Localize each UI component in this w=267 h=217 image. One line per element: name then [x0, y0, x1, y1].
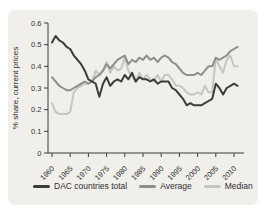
x-tick-label: 2010: [220, 164, 238, 180]
x-tick-label: 1975: [93, 164, 111, 180]
chart-panel: % share, current prices 00.10.20.30.40.5…: [8, 10, 258, 205]
x-tick-label: 1970: [75, 164, 93, 180]
legend-label: DAC countries total: [54, 181, 127, 191]
legend-label: Average: [160, 181, 192, 191]
legend-swatch: [204, 185, 221, 188]
legend: DAC countries total Average Median: [8, 181, 258, 191]
x-tick-label: 1965: [56, 164, 74, 180]
y-tick-label: 0.3: [31, 84, 41, 93]
x-tick-label: 2000: [184, 164, 202, 180]
y-tick-label: 0.1: [31, 127, 41, 136]
chart-svg: % share, current prices 00.10.20.30.40.5…: [8, 10, 258, 180]
page-root: { "panel": { "background": "#f0efeb" }, …: [0, 0, 267, 217]
x-tick-label: 1985: [129, 164, 147, 180]
legend-label: Median: [225, 181, 253, 191]
legend-item-average: Average: [139, 181, 192, 191]
legend-swatch: [33, 185, 50, 188]
x-tick-label: 1995: [166, 164, 184, 180]
x-tick-label: 1990: [147, 164, 165, 180]
y-tick-label: 0.6: [31, 19, 41, 28]
legend-item-median: Median: [204, 181, 253, 191]
y-tick-label: 0.5: [31, 40, 41, 49]
y-axis-label: % share, current prices: [11, 47, 20, 129]
legend-item-dac-countries-total: DAC countries total: [33, 181, 127, 191]
y-tick-label: 0.4: [31, 62, 41, 71]
y-tick-label: 0: [37, 149, 41, 158]
legend-swatch: [139, 185, 156, 188]
series-line-dac-countries-total: [52, 36, 238, 105]
x-tick-label: 1960: [38, 164, 56, 180]
y-tick-label: 0.2: [31, 105, 41, 114]
x-tick-label: 1980: [111, 164, 129, 180]
series-line-average: [52, 47, 238, 90]
x-tick-label: 2005: [202, 164, 220, 180]
